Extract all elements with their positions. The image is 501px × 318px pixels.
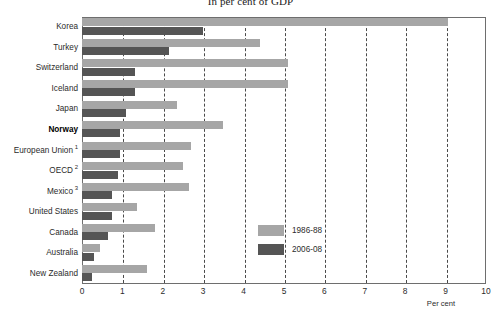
x-axis-title: Per cent — [395, 299, 487, 308]
x-tick-4: 4 — [229, 286, 259, 296]
x-tick-6: 6 — [309, 286, 339, 296]
category-label-oecd: OECD 2 — [0, 166, 78, 176]
x-tick-5: 5 — [269, 286, 299, 296]
bar-row — [82, 17, 486, 38]
bar-1986-88-canada — [82, 224, 155, 232]
category-label-korea: Korea — [0, 22, 78, 32]
category-label-mexico: Mexico 3 — [0, 187, 78, 197]
bar-row — [82, 222, 486, 243]
bar-row — [82, 243, 486, 264]
footnote-marker: 3 — [73, 185, 78, 191]
bar-1986-88-european-union — [82, 142, 191, 150]
bar-2006-08-switzerland — [82, 68, 135, 76]
x-tick-9: 9 — [431, 286, 461, 296]
category-label-united-states: United States — [0, 207, 78, 217]
x-tick-0: 0 — [67, 286, 97, 296]
bar-row — [82, 58, 486, 79]
bar-row — [82, 202, 486, 223]
bar-1986-88-norway — [82, 121, 223, 129]
bar-2006-08-european-union — [82, 150, 120, 158]
category-label-european-union: European Union 1 — [0, 146, 78, 156]
x-tick-10: 10 — [471, 286, 501, 296]
chart-page: In per cent of GDP KoreaTurkeySwitzerlan… — [0, 0, 501, 318]
bar-row — [82, 38, 486, 59]
bar-1986-88-united-states — [82, 203, 137, 211]
category-label-new-zealand: New Zealand — [0, 269, 78, 279]
x-tick-1: 1 — [107, 286, 137, 296]
bar-row — [82, 140, 486, 161]
bar-2006-08-iceland — [82, 88, 135, 96]
legend-swatch — [258, 244, 284, 255]
bar-row — [82, 161, 486, 182]
bar-1986-88-switzerland — [82, 59, 288, 67]
bar-1986-88-new-zealand — [82, 265, 147, 273]
category-label-norway: Norway — [0, 125, 78, 135]
bar-1986-88-korea — [82, 18, 448, 26]
bar-2006-08-norway — [82, 129, 120, 137]
bar-1986-88-australia — [82, 244, 100, 252]
bar-2006-08-korea — [82, 27, 203, 35]
bar-row — [82, 99, 486, 120]
bar-2006-08-australia — [82, 253, 94, 261]
bar-1986-88-oecd — [82, 162, 183, 170]
chart-title: In per cent of GDP — [0, 0, 501, 7]
category-labels: KoreaTurkeySwitzerlandIcelandJapanNorway… — [0, 17, 78, 284]
x-axis-ticks: 012345678910 — [82, 286, 486, 300]
category-label-japan: Japan — [0, 104, 78, 114]
bar-2006-08-united-states — [82, 212, 112, 220]
bar-2006-08-canada — [82, 232, 108, 240]
legend-label: 1986-88 — [292, 225, 322, 236]
bar-1986-88-iceland — [82, 80, 288, 88]
x-tick-2: 2 — [148, 286, 178, 296]
category-label-iceland: Iceland — [0, 84, 78, 94]
bar-2006-08-new-zealand — [82, 273, 92, 281]
x-tick-8: 8 — [390, 286, 420, 296]
bar-row — [82, 263, 486, 284]
bar-row — [82, 120, 486, 141]
bar-1986-88-japan — [82, 101, 177, 109]
legend-label: 2006-08 — [292, 244, 322, 255]
x-tick-7: 7 — [350, 286, 380, 296]
category-label-switzerland: Switzerland — [0, 63, 78, 73]
category-label-australia: Australia — [0, 248, 78, 258]
footnote-marker: 2 — [73, 164, 78, 170]
category-label-turkey: Turkey — [0, 43, 78, 53]
bar-row — [82, 79, 486, 100]
category-label-canada: Canada — [0, 228, 78, 238]
bar-2006-08-japan — [82, 109, 126, 117]
bar-1986-88-mexico — [82, 183, 189, 191]
bar-1986-88-turkey — [82, 39, 260, 47]
bar-2006-08-oecd — [82, 171, 118, 179]
x-tick-3: 3 — [188, 286, 218, 296]
bar-2006-08-turkey — [82, 47, 169, 55]
legend-swatch — [258, 225, 284, 236]
footnote-marker: 1 — [73, 144, 78, 150]
bar-row — [82, 181, 486, 202]
bars-layer — [82, 17, 486, 284]
bar-2006-08-mexico — [82, 191, 112, 199]
